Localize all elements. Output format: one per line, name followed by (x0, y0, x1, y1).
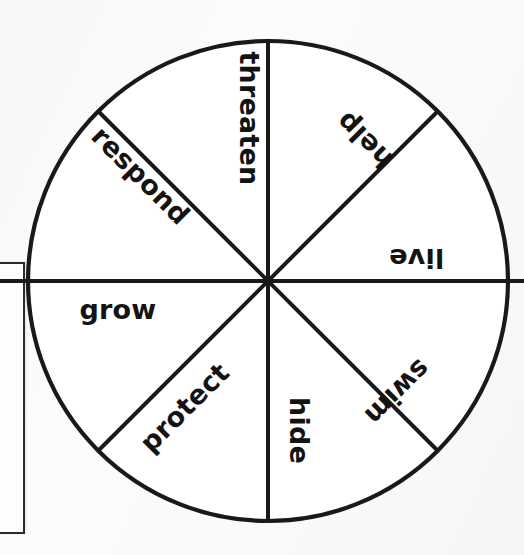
wheel-label-live: live (389, 243, 444, 274)
wheel-label-grow: grow (80, 294, 157, 325)
wheel-label-threaten: threaten (234, 51, 265, 185)
wheel-label-hide: hide (283, 397, 314, 464)
word-wheel: threaten help live swim hide protect gro… (0, 0, 524, 555)
